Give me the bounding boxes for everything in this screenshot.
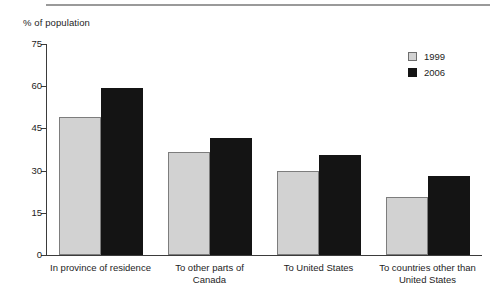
legend-item-2006: 2006 [408,64,445,80]
y-axis-title: % of population [23,17,90,28]
bar-2006-group-3 [319,155,361,255]
bar-1999-group-1 [59,117,101,255]
y-axis-tick-label: 60 [31,80,42,91]
x-axis-category-label: To United States [264,262,373,274]
bar-1999-group-3 [277,171,319,255]
bar-chart-figure: % of population 01530456075 In province … [0,0,500,302]
bar-1999-group-2 [168,152,210,255]
legend-swatch-1999-icon [408,52,417,61]
bar-2006-group-4 [428,176,470,255]
y-axis-tick-label: 75 [31,38,42,49]
legend-swatch-2006-icon [408,68,417,77]
bar-1999-group-4 [386,197,428,255]
bar-2006-group-2 [210,138,252,255]
x-axis-category-label: To countries other than United States [373,262,482,286]
legend-label-2006: 2006 [424,67,445,78]
y-axis-line [46,44,47,255]
x-axis-category-label: In province of residence [46,262,155,274]
legend-label-1999: 1999 [424,51,445,62]
chart-legend: 1999 2006 [408,48,445,80]
bar-2006-group-1 [101,88,143,255]
top-divider-rule [46,4,490,6]
y-axis-tick-label: 15 [31,207,42,218]
x-axis-line [46,255,482,256]
legend-item-1999: 1999 [408,48,445,64]
x-axis-category-label: To other parts of Canada [155,262,264,286]
y-axis-tick-label: 45 [31,122,42,133]
y-axis-tick-label: 30 [31,165,42,176]
y-axis-tick-label: 0 [37,249,42,260]
